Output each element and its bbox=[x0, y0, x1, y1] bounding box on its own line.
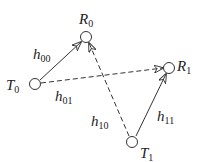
label-h10: h10 bbox=[91, 113, 109, 131]
label-T1: T1 bbox=[140, 145, 153, 162]
label-R0: R0 bbox=[78, 11, 93, 29]
edge-h01 bbox=[41, 68, 163, 83]
label-h00: h00 bbox=[33, 46, 51, 64]
node-T1-circle bbox=[127, 137, 138, 148]
node-R0-circle bbox=[81, 32, 92, 43]
edge-h11 bbox=[136, 74, 166, 136]
node-R1-circle bbox=[164, 63, 175, 74]
label-h01: h01 bbox=[55, 88, 73, 106]
label-h11: h11 bbox=[157, 108, 174, 126]
channel-diagram: T0 R0 R1 T1 h00 h01 h10 h11 bbox=[0, 0, 199, 162]
label-R1: R1 bbox=[176, 58, 191, 76]
diagram-svg: T0 R0 R1 T1 h00 h01 h10 h11 bbox=[0, 0, 199, 162]
node-T0-circle bbox=[30, 79, 41, 90]
label-T0: T0 bbox=[6, 77, 19, 95]
